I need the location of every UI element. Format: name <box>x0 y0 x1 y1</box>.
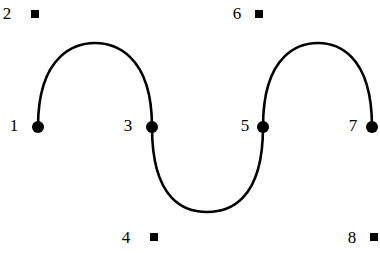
node-marker-4[interactable] <box>150 233 158 241</box>
figure-svg <box>0 0 380 253</box>
node-label-4: 4 <box>122 229 131 246</box>
node-marker-5[interactable] <box>257 121 269 133</box>
node-label-1: 1 <box>10 117 19 134</box>
node-label-2: 2 <box>3 5 12 22</box>
node-label-3: 3 <box>124 117 133 134</box>
node-marker-2[interactable] <box>31 10 39 18</box>
sine-curve-path <box>38 43 372 212</box>
node-label-7: 7 <box>349 117 358 134</box>
node-marker-6[interactable] <box>255 10 263 18</box>
node-marker-1[interactable] <box>32 121 44 133</box>
figure-canvas: 12345678 <box>0 0 380 253</box>
node-marker-8[interactable] <box>370 233 378 241</box>
node-marker-7[interactable] <box>366 121 378 133</box>
node-label-6: 6 <box>233 5 242 22</box>
node-label-5: 5 <box>241 117 250 134</box>
node-marker-3[interactable] <box>146 121 158 133</box>
node-label-8: 8 <box>348 229 357 246</box>
